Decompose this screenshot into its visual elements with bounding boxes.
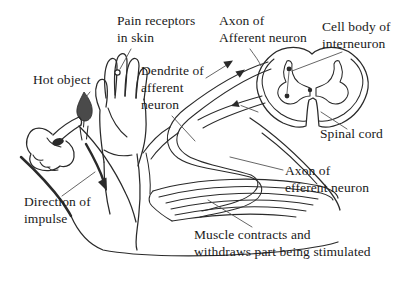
central-canal-dot (308, 88, 312, 92)
motor-neuron-dot (285, 94, 290, 99)
pain-receptors-leader (120, 49, 131, 69)
axon-afferent-leader (250, 49, 261, 66)
flame-icon (77, 92, 92, 140)
label-muscle-contracts: Muscle contracts and withdraws part bein… (194, 226, 371, 260)
hot-object-leader (86, 92, 90, 97)
bundle-arrowhead (235, 70, 245, 78)
label-spinal-cord: Spinal cord (320, 125, 383, 142)
label-axon-afferent: Axon of Afferent neuron (219, 12, 307, 46)
efferent-arrowhead (231, 100, 240, 107)
label-pain-receptors: Pain receptors in skin (117, 12, 195, 46)
label-cell-body-interneuron: Cell body of interneuron (322, 18, 391, 52)
spinal-cord-cross-section (257, 47, 368, 127)
pain-receptor-dot (115, 70, 120, 75)
axon-efferent-leader (230, 157, 283, 170)
label-dendrite-afferent: Dendrite of afferent neuron (141, 62, 204, 113)
interneuron-cell-body-dot (287, 67, 292, 72)
label-axon-efferent: Axon of efferent neuron (285, 162, 369, 196)
reflex-arc-diagram: Hot object Pain receptors in skin Axon o… (0, 0, 414, 283)
dendrite-leader (172, 116, 195, 141)
label-hot-object: Hot object (33, 71, 91, 88)
label-direction-of-impulse: Direction of impulse (24, 193, 91, 227)
afferent-arrow-tail (206, 66, 226, 79)
afferent-arrowhead (223, 61, 233, 69)
